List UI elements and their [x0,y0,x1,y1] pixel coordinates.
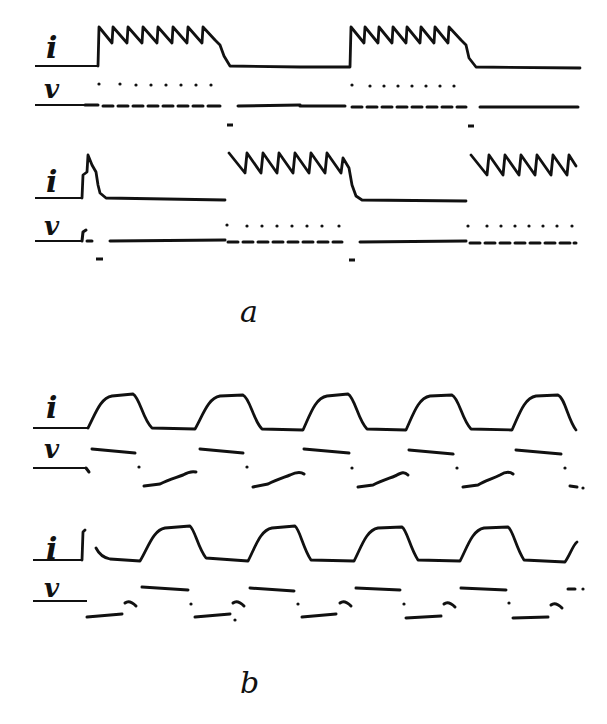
voltage-spike-dot [499,224,502,227]
panel-caption-a: a [240,294,258,329]
voltage-spike-dot [570,224,573,227]
oscillogram-figure: ivivaivivb [0,0,607,724]
voltage-spike-dot [485,224,488,227]
voltage-spike-dot [194,83,197,86]
current-label: i [46,164,57,199]
voltage-spike-dot [382,84,385,87]
voltage-spike-dot [337,224,340,227]
voltage-spike-dot [527,224,530,227]
voltage-spike-dot [290,224,293,227]
voltage-waveform-segment [406,616,441,618]
voltage-spike-dot [305,224,308,227]
voltage-waveform-segment [570,486,577,487]
voltage-spike-dot [438,84,441,87]
voltage-waveform-segment [110,240,225,241]
voltage-spike-dot [118,82,121,85]
voltage-spike-dot [97,82,100,85]
voltage-spike-dot [245,465,248,468]
voltage-spike-dot [455,466,458,469]
voltage-label: v [44,211,60,241]
voltage-spike-dot [555,224,558,227]
voltage-spike-dot [396,84,399,87]
voltage-spike-dot [209,83,212,86]
voltage-spike-dot [581,587,584,590]
voltage-spike-dot [466,224,469,227]
voltage-spike-dot [350,466,353,469]
voltage-spike-dot [233,618,236,621]
voltage-spike-dot [541,224,544,227]
voltage-waveform-segment [356,588,400,590]
voltage-spike-dot [137,465,140,468]
voltage-waveform-segment [461,588,506,590]
voltage-spike-dot [134,83,137,86]
voltage-spike-dot [563,466,566,469]
voltage-spike-dot [424,84,427,87]
voltage-spike-dot [189,602,192,605]
current-label: i [46,390,57,425]
voltage-spike-dot [245,224,248,227]
voltage-spike-dot [179,83,182,86]
voltage-spike-dot [149,83,152,86]
voltage-spike-dot [513,224,516,227]
panel-caption-b: b [240,665,259,700]
voltage-spike-dot [452,84,455,87]
voltage-spike-dot [368,84,371,87]
voltage-label: v [44,74,60,104]
voltage-spike-dot [320,224,323,227]
voltage-spike-dot [507,601,510,604]
voltage-spike-dot [275,224,278,227]
voltage-waveform-segment [238,105,300,106]
current-label: i [46,30,57,65]
voltage-spike-dot [225,223,228,226]
voltage-label: v [44,434,60,464]
voltage-waveform-segment [513,617,548,618]
voltage-waveform-segment [360,241,466,242]
voltage-spike-dot [402,602,405,605]
voltage-spike-dot [296,602,299,605]
voltage-spike-dot [350,83,353,86]
voltage-label: v [44,573,60,603]
voltage-spike-dot [260,224,263,227]
voltage-spike-dot [164,83,167,86]
voltage-spike-dot [410,84,413,87]
voltage-spike-dot [581,486,584,489]
